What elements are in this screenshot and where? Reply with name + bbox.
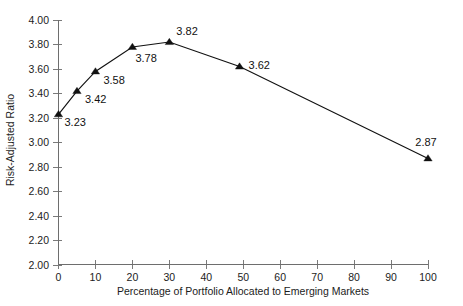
data-point-marker [91,68,99,74]
x-tick-label: 20 [127,271,139,283]
series-line [59,42,429,158]
x-tick-label: 80 [348,271,360,283]
x-tick-label: 30 [164,271,176,283]
x-tick-label: 70 [311,271,323,283]
y-tick-label: 4.00 [29,14,50,26]
y-tick-label: 3.80 [29,38,50,50]
y-tick-label: 2.20 [29,234,50,246]
y-tick-label: 3.40 [29,87,50,99]
data-point-label: 3.78 [135,52,156,64]
data-point-label: 3.58 [103,74,124,86]
y-tick-label: 2.60 [29,185,50,197]
y-tick-label: 3.60 [29,63,50,75]
x-tick-label: 90 [385,271,397,283]
data-point-label: 3.42 [85,93,106,105]
y-tick-label: 3.00 [29,136,50,148]
data-series [54,38,432,161]
data-point-marker [424,155,432,161]
y-tick-label: 3.20 [29,112,50,124]
data-point-label: 3.82 [176,25,197,37]
data-point-label: 3.23 [65,116,86,128]
data-point-label: 3.62 [249,59,270,71]
y-axis: 2.002.202.402.602.803.003.203.403.603.80… [29,14,62,271]
x-tick-label: 50 [237,271,249,283]
x-axis: 0102030405060708090100 [56,260,437,283]
data-point-labels: 3.233.423.583.783.823.622.87 [65,25,437,148]
y-tick-label: 2.00 [29,259,50,271]
x-axis-title: Percentage of Portfolio Allocated to Eme… [117,285,369,297]
y-tick-label: 2.40 [29,210,50,222]
x-tick-label: 10 [90,271,102,283]
x-tick-label: 40 [200,271,212,283]
x-tick-label: 60 [274,271,286,283]
data-point-label: 2.87 [415,136,436,148]
chart-figure: 2.002.202.402.602.803.003.203.403.603.80… [0,0,463,306]
x-tick-label: 0 [56,271,62,283]
x-tick-label: 100 [419,271,437,283]
line-chart: 2.002.202.402.602.803.003.203.403.603.80… [0,0,463,306]
y-axis-title: Risk-Adjusted Ratio [4,94,16,186]
y-tick-label: 2.80 [29,161,50,173]
data-point-marker [165,38,173,44]
